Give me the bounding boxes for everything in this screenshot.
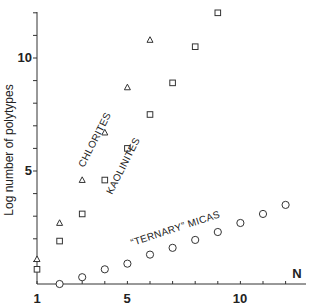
marker-circle: [259, 210, 266, 217]
x-tick-label-1: 1: [33, 291, 40, 306]
plot-area: 1 5 10 5 10 N Log number of polytypes CH…: [0, 0, 310, 308]
x-axis-label: N: [292, 266, 301, 281]
marker-circle: [56, 280, 63, 287]
marker-triangle: [34, 256, 40, 262]
marker-square: [102, 177, 108, 183]
marker-square: [215, 10, 221, 16]
marker-circle: [101, 266, 108, 273]
marker-circle: [282, 201, 289, 208]
x-tick-label-5: 5: [123, 291, 130, 306]
marker-square: [79, 211, 85, 217]
marker-circle: [214, 228, 221, 235]
marker-triangle: [79, 177, 85, 183]
annotation-kaolinites: KAOLINITES: [104, 136, 142, 196]
y-tick-label-5: 5: [25, 163, 32, 178]
y-tick-label-10: 10: [18, 50, 32, 65]
marker-circle: [124, 260, 131, 267]
data-points: [34, 10, 289, 288]
marker-square: [57, 238, 63, 244]
marker-square: [147, 112, 153, 118]
marker-triangle: [57, 220, 63, 226]
annotation-ternary-micas: “TERNARY” MICAS: [129, 209, 221, 248]
marker-circle: [237, 219, 244, 226]
marker-circle: [146, 251, 153, 258]
marker-square: [170, 80, 176, 86]
marker-triangle: [124, 84, 130, 90]
y-axis-label: Log number of polytypes: [2, 84, 16, 215]
marker-circle: [79, 274, 86, 281]
x-tick-label-10: 10: [233, 291, 247, 306]
marker-circle: [169, 244, 176, 251]
marker-square: [34, 267, 40, 273]
marker-circle: [192, 236, 199, 243]
annotation-chlorites: CHLORITES: [76, 110, 113, 168]
scatter-chart: 1 5 10 5 10 N Log number of polytypes CH…: [0, 0, 310, 308]
marker-triangle: [147, 37, 153, 43]
marker-square: [192, 44, 198, 50]
axes: [33, 12, 306, 284]
